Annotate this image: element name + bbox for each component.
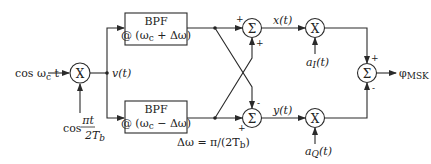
bpf-upper-center: @ (ωc + Δω): [121, 29, 191, 43]
svg-text:Σ: Σ: [248, 22, 256, 36]
summer-top-bottom-sign: +: [256, 38, 264, 48]
quadrature-to-final-sum: [325, 83, 367, 118]
summer-final: Σ: [358, 64, 377, 83]
summer-top: Σ: [243, 19, 262, 38]
in-phase-to-final-sum: [325, 28, 367, 63]
y-signal-label: y(t): [272, 104, 292, 117]
bpf-upper: BPF @ (ωc + Δω): [121, 13, 191, 45]
bpf-lower: BPF @ (ωc − Δω): [121, 101, 191, 133]
bpf-lower-center: @ (ωc − Δω): [121, 117, 191, 131]
summer-bottom-top-sign: -: [257, 98, 260, 108]
bpf-lower-title: BPF: [144, 103, 167, 116]
carrier-input-label: cos ωc t: [15, 67, 59, 82]
x-signal-label: x(t): [273, 14, 292, 27]
multiplier-symbol: X: [76, 67, 85, 81]
modulating-input-label: cos πt 2Tb: [63, 114, 105, 143]
summer-final-bottom-sign: -: [372, 83, 375, 93]
svg-text:2Tb: 2Tb: [84, 129, 105, 143]
svg-text:cos: cos: [63, 122, 82, 135]
multiplier-quadrature: X: [306, 109, 325, 128]
svg-text:Σ: Σ: [363, 67, 371, 81]
svg-text:πt: πt: [81, 114, 94, 127]
summer-final-top-sign: +: [371, 53, 379, 63]
output-label: φMSK: [399, 67, 429, 81]
bpf-upper-title: BPF: [144, 15, 167, 28]
quadrature-data-label: aQ(t): [305, 145, 332, 159]
mixer-node: X: [70, 63, 90, 83]
summer-top-left-sign: +: [236, 14, 244, 24]
mixer-output-label: v(t): [112, 67, 131, 80]
svg-text:X: X: [311, 22, 320, 36]
svg-text:X: X: [311, 112, 320, 126]
summer-bottom-left-sign: +: [238, 123, 246, 133]
multiplier-in-phase: X: [306, 19, 325, 38]
in-phase-data-label: aI(t): [306, 56, 329, 70]
delta-omega-definition: Δω = π/(2Tb): [177, 136, 250, 150]
svg-text:Σ: Σ: [248, 112, 256, 126]
msk-modulator-diagram: cos ωc t X cos πt 2Tb v(t) BPF @ (ωc + Δ…: [0, 0, 431, 164]
